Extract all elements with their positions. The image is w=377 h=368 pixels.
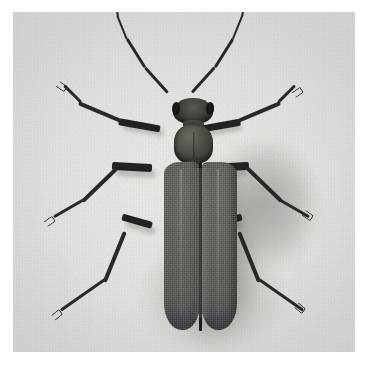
page-root <box>0 0 377 368</box>
beetle-photograph <box>13 12 355 352</box>
film-grain-overlay <box>13 12 355 352</box>
figure-caption <box>13 354 355 366</box>
